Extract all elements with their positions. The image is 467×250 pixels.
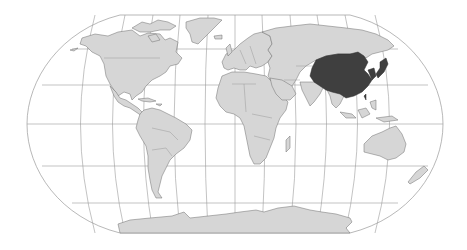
australia: [364, 126, 406, 160]
japan: [376, 58, 388, 78]
new-zealand: [408, 166, 428, 184]
taiwan: [364, 94, 366, 100]
world-map: [0, 0, 467, 250]
europe: [222, 32, 272, 70]
greenland: [186, 18, 222, 44]
north-america: [70, 30, 182, 116]
iceland: [214, 35, 222, 39]
highlighted-east-asia: [310, 52, 388, 100]
